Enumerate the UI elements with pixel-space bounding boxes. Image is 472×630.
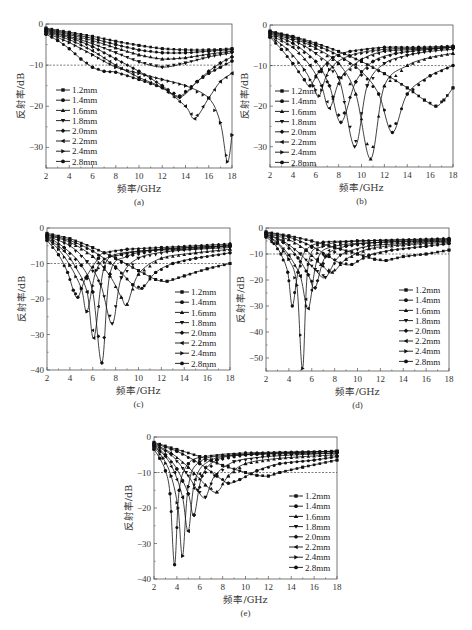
data-point-marker (143, 80, 146, 83)
legend-label: 1.8mm (191, 318, 216, 328)
legend-marker (404, 349, 408, 353)
data-point-marker (413, 254, 416, 257)
data-point-marker (320, 46, 323, 49)
data-point-marker (177, 276, 180, 279)
data-point-marker (372, 66, 375, 69)
data-point-marker (320, 44, 323, 47)
data-point (154, 278, 157, 281)
data-point-marker (390, 239, 393, 242)
data-point (337, 50, 340, 53)
legend-label: 1.8mm (305, 522, 330, 532)
chart-panel-1: 246810121416180−10−20−30频率/GHz反射率/dB(a)1… (15, 19, 237, 207)
legend: 1.2mm1.4mm1.6mm1.8mm2.0mm2.2mm2.4mm2.8mm (289, 491, 330, 572)
data-point (314, 46, 318, 50)
data-point-marker (155, 84, 158, 87)
legend-marker (61, 88, 64, 91)
y-tick-label: −50 (249, 353, 264, 363)
data-point (448, 249, 451, 252)
chart-panel-3: 246810121416180−10−20−30−40频率/GHz反射率/dB(… (16, 223, 235, 409)
data-point-marker (407, 247, 410, 250)
data-point (125, 248, 128, 251)
data-point (280, 48, 283, 51)
data-point (303, 78, 306, 81)
data-point (390, 248, 393, 251)
y-tick-label: −20 (253, 101, 268, 111)
x-tick-label: 4 (287, 374, 292, 384)
data-point-marker (342, 111, 346, 115)
data-point (114, 40, 117, 43)
data-point (428, 74, 431, 77)
data-point (184, 84, 188, 88)
data-point (451, 51, 455, 55)
x-tick-label: 8 (336, 170, 341, 180)
data-point-marker (108, 250, 111, 253)
legend-label: 2.8mm (72, 157, 97, 167)
legend-label: 1.6mm (291, 107, 316, 117)
data-point (68, 47, 71, 50)
data-point-marker (446, 45, 449, 48)
data-point-marker (190, 49, 193, 52)
data-point-marker (155, 51, 158, 54)
data-point-marker (177, 261, 180, 264)
data-point-marker (305, 238, 308, 241)
data-point-marker (68, 252, 72, 256)
data-point-marker (326, 62, 329, 65)
data-point (206, 267, 209, 270)
data-point-marker (184, 90, 187, 93)
data-point-marker (385, 239, 388, 242)
legend: 1.2mm1.4mm1.6mm1.8mm2.0mm2.2mm2.4mm2.8mm (399, 285, 440, 366)
data-point-marker (394, 58, 398, 61)
y-tick-label: 0 (40, 223, 45, 233)
x-tick-label: 6 (310, 374, 315, 384)
data-point-marker (102, 295, 106, 298)
data-point-marker (120, 44, 123, 47)
data-point (442, 99, 445, 102)
y-tick-label: −40 (249, 327, 264, 337)
legend-label: 1.2mm (291, 86, 316, 96)
data-point-marker (144, 45, 147, 48)
data-point-marker (79, 40, 83, 44)
data-point-marker (126, 46, 129, 49)
data-point-marker (371, 77, 375, 80)
data-point (434, 105, 437, 108)
x-tick-label: 6 (314, 170, 319, 180)
data-point (114, 43, 117, 46)
data-point-marker (343, 52, 346, 55)
data-point (331, 56, 334, 59)
legend-label: 2.4mm (305, 552, 330, 562)
y-axis-label: 反射率/dB (15, 73, 26, 119)
data-point-marker (149, 82, 152, 85)
legend-marker (180, 300, 184, 304)
data-point-marker (299, 264, 302, 267)
data-point-marker (324, 450, 327, 453)
x-tick-label: 12 (264, 582, 273, 592)
data-point-marker (389, 46, 392, 49)
data-point-marker (183, 245, 186, 248)
y-tick-label: −30 (29, 142, 44, 152)
legend-marker (180, 362, 184, 366)
data-point-marker (293, 291, 296, 294)
legend-marker (294, 535, 299, 540)
data-point-marker (238, 452, 241, 455)
data-point-marker (224, 76, 227, 80)
data-point (267, 475, 270, 478)
data-point-marker (295, 460, 298, 463)
data-point-marker (430, 237, 433, 240)
data-point-marker (396, 257, 399, 260)
y-tick-label: 0 (263, 20, 268, 30)
data-point-marker (360, 49, 363, 52)
chart-panel-2: 246810121416180−10−20−30频率/GHz反射率/dB(b)1… (239, 20, 458, 206)
data-point-marker (143, 247, 146, 250)
legend-marker (61, 160, 65, 164)
legend-label: 2.0mm (305, 532, 330, 542)
data-point-marker (290, 451, 293, 454)
data-point-marker (68, 278, 71, 281)
legend-marker (294, 555, 298, 559)
data-point-marker (170, 448, 173, 451)
data-point-marker (371, 47, 374, 50)
data-point-marker (400, 46, 403, 49)
y-tick-label: −20 (137, 503, 152, 513)
data-point-marker (109, 39, 112, 42)
chart-panel-4: 246810121416180−10−20−30−40−50频率/GHz反射率/… (235, 223, 454, 410)
legend-marker (280, 150, 284, 154)
